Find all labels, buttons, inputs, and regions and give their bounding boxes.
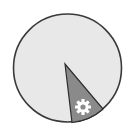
- gear-icon: [75, 99, 91, 115]
- pie-chart-icon: [0, 0, 135, 134]
- pie-chart: [0, 0, 135, 134]
